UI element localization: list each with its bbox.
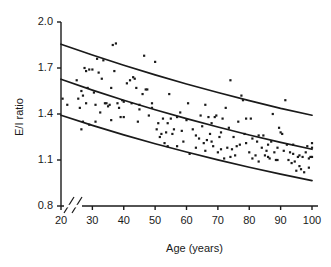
data-point — [83, 67, 85, 69]
data-point — [306, 145, 308, 147]
data-point — [276, 159, 278, 161]
data-point — [270, 141, 272, 143]
data-point — [151, 102, 153, 104]
x-tick-label: 80 — [234, 215, 264, 226]
data-point — [256, 141, 258, 143]
data-point — [245, 142, 247, 144]
data-point — [93, 91, 95, 93]
data-point — [99, 111, 101, 113]
data-point — [192, 128, 194, 130]
data-point — [179, 111, 181, 113]
data-point — [163, 142, 165, 144]
data-point — [223, 157, 225, 159]
data-point — [251, 137, 253, 139]
data-point — [311, 147, 313, 149]
data-point — [87, 87, 89, 89]
data-point — [198, 137, 200, 139]
data-point — [138, 104, 140, 106]
x-tick-label: 100 — [297, 215, 327, 226]
data-point — [101, 78, 103, 80]
data-point — [203, 142, 205, 144]
data-point — [162, 118, 164, 120]
data-point — [269, 157, 271, 159]
data-point — [237, 121, 239, 123]
data-point — [173, 128, 175, 130]
data-point — [85, 102, 87, 104]
data-point — [195, 134, 197, 136]
data-point — [185, 119, 187, 121]
data-point — [265, 150, 267, 152]
data-point — [94, 121, 96, 123]
data-point — [160, 133, 162, 135]
data-point — [187, 102, 189, 104]
data-point — [129, 79, 131, 81]
data-point — [228, 127, 230, 129]
data-point — [300, 168, 302, 170]
data-point — [215, 114, 217, 116]
data-point — [220, 131, 222, 133]
data-point — [102, 59, 104, 61]
data-point — [220, 148, 222, 150]
data-point — [195, 147, 197, 149]
data-point — [311, 156, 313, 158]
data-point — [141, 93, 143, 95]
data-point — [167, 122, 169, 124]
data-point — [311, 142, 313, 144]
data-point — [258, 134, 260, 136]
data-point — [96, 58, 98, 60]
data-point — [143, 55, 145, 57]
data-point — [278, 127, 280, 129]
x-tick-label: 60 — [172, 215, 202, 226]
data-point — [298, 154, 300, 156]
data-point — [88, 124, 90, 126]
data-point — [123, 101, 125, 103]
data-point — [79, 107, 81, 109]
data-point — [308, 167, 310, 169]
data-point — [105, 102, 107, 104]
y-tick-label: 1.7 — [20, 62, 53, 73]
data-point — [204, 104, 206, 106]
data-point — [80, 90, 82, 92]
data-point — [305, 151, 307, 153]
data-point — [217, 151, 219, 153]
data-point — [248, 151, 250, 153]
data-point — [226, 147, 228, 149]
data-point — [168, 93, 170, 95]
data-point — [115, 42, 117, 44]
data-point — [283, 150, 285, 152]
data-point — [167, 145, 169, 147]
data-point — [204, 150, 206, 152]
data-point — [120, 116, 122, 118]
data-point — [116, 102, 118, 104]
x-tick-label: 90 — [266, 215, 296, 226]
data-point — [262, 134, 264, 136]
data-point — [298, 165, 300, 167]
reference-curve-lower — [61, 115, 312, 180]
data-point — [159, 136, 161, 138]
data-point — [82, 95, 84, 97]
data-point — [207, 116, 209, 118]
data-point — [110, 87, 112, 89]
data-point — [176, 116, 178, 118]
axis-break-marks — [64, 197, 82, 213]
data-point — [94, 104, 96, 106]
data-point — [295, 170, 297, 172]
data-point — [251, 157, 253, 159]
data-point — [157, 122, 159, 124]
data-point — [85, 70, 87, 72]
data-point — [240, 95, 242, 97]
data-point — [110, 119, 112, 121]
data-point — [76, 79, 78, 81]
data-point — [245, 118, 247, 120]
scatter-plot-canvas — [0, 0, 331, 267]
data-point — [286, 144, 288, 146]
x-tick-label: 40 — [109, 215, 139, 226]
data-point — [201, 125, 203, 127]
axis-break-gap — [64, 205, 82, 208]
data-point — [80, 128, 82, 130]
data-point — [289, 151, 291, 153]
data-point — [236, 145, 238, 147]
data-point — [284, 99, 286, 101]
data-point — [294, 160, 296, 162]
data-point — [113, 70, 115, 72]
